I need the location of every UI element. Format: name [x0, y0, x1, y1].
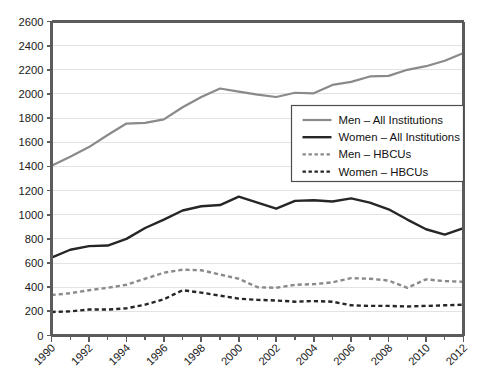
y-tick-label: 200 — [25, 305, 44, 317]
y-tick-label: 2600 — [19, 16, 44, 28]
y-tick-label: 1800 — [19, 112, 44, 124]
y-tick-label: 600 — [25, 257, 44, 269]
y-tick-label: 2200 — [19, 64, 44, 76]
series-line-2 — [52, 270, 464, 295]
y-tick-label: 1200 — [19, 185, 44, 197]
chart-legend: Men – All InstitutionsWomen – All Instit… — [292, 106, 464, 182]
x-tick-label: 1994 — [106, 341, 132, 367]
series-lines — [52, 53, 464, 312]
y-tick-label: 1600 — [19, 136, 44, 148]
chart-container: 2600240022002000180016001400120010008006… — [0, 0, 484, 378]
y-tick-label: 0 — [37, 330, 43, 342]
x-axis-ticks: 1990199219941996199820002002200420062008… — [31, 336, 469, 368]
y-tick-label: 400 — [25, 281, 44, 293]
y-tick-label: 800 — [25, 233, 44, 245]
y-axis-ticks: 2600240022002000180016001400120010008006… — [19, 16, 52, 342]
line-chart: 2600240022002000180016001400120010008006… — [0, 0, 484, 378]
y-tick-label: 2000 — [19, 88, 44, 100]
x-tick-label: 2000 — [219, 341, 245, 367]
x-tick-label: 1990 — [31, 341, 57, 367]
x-tick-label: 2012 — [443, 341, 469, 367]
series-line-3 — [52, 290, 464, 312]
y-tick-label: 2400 — [19, 40, 44, 52]
x-tick-label: 2002 — [256, 341, 282, 367]
legend-label-0: Men – All Institutions — [339, 114, 444, 126]
x-tick-label: 1996 — [144, 341, 170, 367]
legend-label-3: Women – HBCUs — [339, 166, 429, 178]
x-tick-label: 2008 — [368, 341, 394, 367]
series-line-1 — [52, 197, 464, 258]
x-tick-label: 2006 — [331, 341, 357, 367]
x-tick-label: 1992 — [69, 341, 95, 367]
y-tick-label: 1000 — [19, 209, 44, 221]
legend-label-1: Women – All Institutions — [339, 131, 461, 143]
x-tick-label: 2010 — [406, 341, 432, 367]
x-tick-label: 1998 — [181, 341, 207, 367]
y-tick-label: 1400 — [19, 160, 44, 172]
x-tick-label: 2004 — [294, 341, 320, 367]
legend-label-2: Men – HBCUs — [339, 148, 412, 160]
